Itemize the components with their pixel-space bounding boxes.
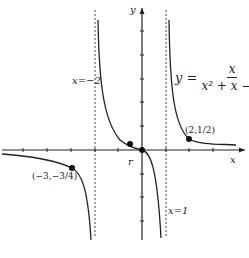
asymptote-label-1: x=1 <box>168 206 188 216</box>
point-r <box>127 141 133 147</box>
point-label-neg3: (−3,−3/4) <box>32 172 77 181</box>
equation-fraction: x x² + x − 2 <box>201 62 249 93</box>
asymptote-label-neg2: x=−2 <box>72 76 101 86</box>
equation-lhs: y = <box>175 70 197 85</box>
point-label-2-half: (2,1/2) <box>185 126 215 135</box>
x-axis <box>2 148 245 153</box>
point-origin <box>139 147 145 153</box>
curve-left-branch <box>2 154 91 240</box>
y-axis-label: y <box>130 5 136 15</box>
x-axis-label: x <box>230 155 236 165</box>
function-equation: y = x x² + x − 2 <box>175 62 249 93</box>
point-label-r: r <box>128 157 133 167</box>
equation-denominator: x² + x − 2 <box>201 78 249 93</box>
curve-middle-branch <box>98 20 161 238</box>
point-2-half <box>186 136 192 142</box>
y-axis <box>140 8 145 240</box>
equation-numerator: x <box>227 62 238 78</box>
